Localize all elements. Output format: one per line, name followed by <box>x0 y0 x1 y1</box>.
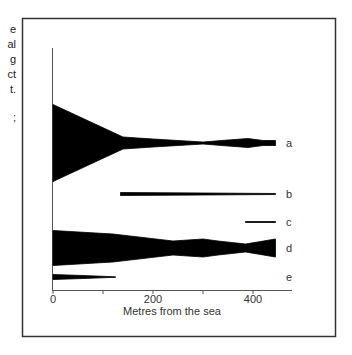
kite-e <box>53 275 116 280</box>
kite-c <box>246 222 276 223</box>
x-tick-label: 400 <box>244 293 262 305</box>
x-tick-label: 200 <box>144 293 162 305</box>
series-label-e: e <box>286 271 292 283</box>
series-label-b: b <box>286 188 292 200</box>
kite-a <box>53 105 276 182</box>
figure-frame <box>23 19 336 337</box>
kite-b <box>121 193 276 196</box>
x-tick-label: 0 <box>50 293 56 305</box>
kite-d <box>53 231 276 266</box>
x-axis-title: Metres from the sea <box>123 305 222 317</box>
kite-diagram: 0200400 abcde Metres from the sea <box>0 0 352 355</box>
series-label-a: a <box>286 137 293 149</box>
series-label-d: d <box>286 242 292 254</box>
series-label-c: c <box>286 216 292 228</box>
